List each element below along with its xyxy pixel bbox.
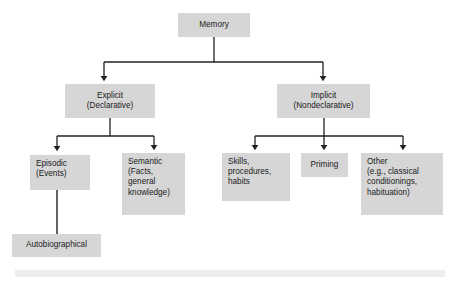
- node-explicit: Explicit (Declarative): [65, 84, 155, 118]
- node-skills: Skills, procedures, habits: [222, 153, 290, 201]
- node-semantic: Semantic (Facts, general knowledge): [122, 153, 185, 215]
- footer-divider-bar: [15, 270, 445, 277]
- edge-explicit-to-level3: [57, 118, 154, 147]
- node-priming: Priming: [301, 153, 348, 177]
- memory-taxonomy-diagram: Memory Explicit (Declarative) Implicit (…: [0, 0, 453, 281]
- node-other: Other (e.g., classical conditionings, ha…: [361, 153, 443, 215]
- edge-implicit-to-level3: [255, 118, 403, 146]
- edge-memory-to-level2: [104, 37, 323, 77]
- node-memory: Memory: [178, 13, 250, 37]
- node-episodic: Episodic (Events): [30, 155, 90, 190]
- node-autobiographical: Autobiographical: [12, 234, 101, 257]
- node-implicit: Implicit (Nondeclarative): [277, 84, 370, 118]
